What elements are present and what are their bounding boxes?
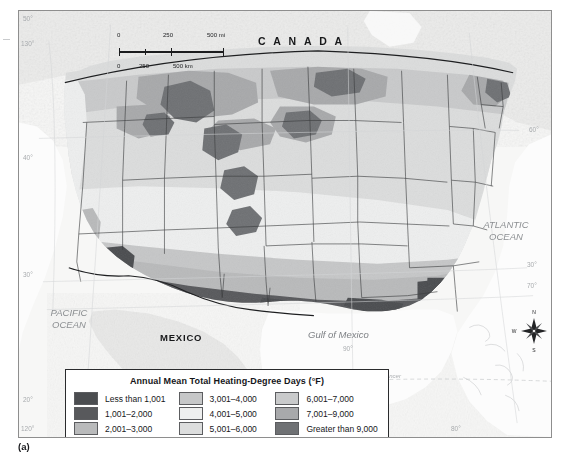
legend-column-1: Less than 1,001 1,001–2,000 2,001–3,000 (74, 391, 179, 436)
scale-miles-0: 0 (117, 32, 120, 38)
figure-caption: (a) (18, 441, 30, 452)
compass-rose: N S W E (511, 307, 552, 353)
compass-label-west: W (512, 328, 517, 334)
scale-tick-left (119, 48, 120, 56)
compass-label-south: S (532, 347, 536, 353)
legend-title: Annual Mean Total Heating-Degree Days (°… (74, 376, 380, 386)
scale-bar-km: 0 250 500 km (111, 56, 233, 66)
legend-label: 2,001–3,000 (105, 424, 152, 434)
legend-item: Greater than 9,000 (275, 421, 380, 436)
scale-miles-500: 500 mi (207, 32, 225, 38)
legend-swatch (275, 392, 299, 405)
legend-label: 1,001–2,000 (105, 409, 152, 419)
map-frame: C A N A D A MEXICO PACIFIC OCEAN ATLANTI… (18, 10, 552, 438)
compass-label-north: N (532, 309, 536, 315)
legend-swatch (74, 422, 98, 435)
scale-km-0: 0 (117, 63, 120, 69)
scale-tick-right (223, 48, 224, 56)
legend-columns: Less than 1,001 1,001–2,000 2,001–3,000 (74, 391, 380, 436)
legend-swatch (275, 422, 299, 435)
legend-label: 7,001–9,000 (306, 409, 353, 419)
figure-root: C A N A D A MEXICO PACIFIC OCEAN ATLANTI… (0, 0, 570, 462)
scale-bar: 0 250 500 mi 0 250 500 km (111, 37, 233, 66)
legend-label: 4,001–5,000 (210, 409, 257, 419)
scale-tick-km-mid (145, 49, 146, 55)
legend-label: 3,001–4,000 (210, 394, 257, 404)
scale-tick-mid (171, 48, 172, 56)
legend-item: 5,001–6,000 (179, 421, 276, 436)
legend-swatch (74, 392, 98, 405)
scale-km-500: 500 km (173, 63, 193, 69)
scale-bar-line (111, 47, 233, 56)
legend-item: 3,001–4,000 (179, 391, 276, 406)
scale-miles-250: 250 (163, 32, 173, 38)
legend-label: 6,001–7,000 (306, 394, 353, 404)
map-legend: Annual Mean Total Heating-Degree Days (°… (65, 369, 389, 438)
legend-swatch (275, 407, 299, 420)
legend-item: 4,001–5,000 (179, 406, 276, 421)
legend-item: 2,001–3,000 (74, 421, 179, 436)
legend-column-2: 3,001–4,000 4,001–5,000 5,001–6,000 (179, 391, 276, 436)
edge-tick-mark (3, 39, 10, 40)
legend-label: 5,001–6,000 (210, 424, 257, 434)
legend-column-3: 6,001–7,000 7,001–9,000 Greater than 9,0… (275, 391, 380, 436)
scale-bar-miles: 0 250 500 mi (111, 37, 233, 47)
legend-swatch (179, 392, 203, 405)
scale-km-250: 250 (139, 63, 149, 69)
legend-label: Less than 1,001 (105, 394, 166, 404)
legend-item: Less than 1,001 (74, 391, 179, 406)
legend-swatch (179, 422, 203, 435)
legend-item: 1,001–2,000 (74, 406, 179, 421)
legend-item: 6,001–7,000 (275, 391, 380, 406)
legend-label: Greater than 9,000 (306, 424, 377, 434)
legend-swatch (179, 407, 203, 420)
legend-item: 7,001–9,000 (275, 406, 380, 421)
legend-swatch (74, 407, 98, 420)
compass-rose-icon: N S W E (511, 307, 552, 353)
